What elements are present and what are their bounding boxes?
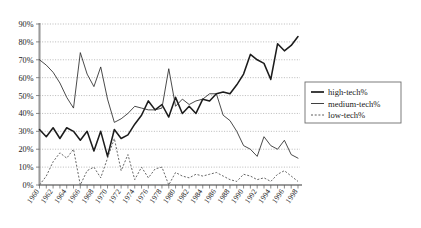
series-line-medium-tech	[40, 53, 299, 159]
x-axis-tick-label: 1976	[134, 187, 150, 205]
y-axis-tick-label: 10%	[18, 163, 33, 172]
x-axis-tick-label: 1972	[107, 187, 123, 205]
chart-legend: high-tech%medium-tech%low-tech%	[305, 82, 401, 123]
line-chart: 0%10%20%30%40%50%60%70%80%90% 1960196219…	[0, 0, 421, 228]
legend-label-high-tech: high-tech%	[328, 87, 368, 97]
x-axis-tick-labels: 1960196219641966196819701972197419761978…	[25, 187, 300, 205]
x-axis-tick-label: 1994	[256, 187, 272, 205]
x-axis-tick-label: 1966	[66, 187, 82, 205]
x-axis-tick-label: 1988	[216, 187, 232, 205]
x-axis-tick-label: 1986	[202, 187, 218, 205]
y-axis-tick-label: 80%	[18, 38, 33, 47]
y-axis-tick-label: 70%	[18, 56, 33, 65]
legend-label-medium-tech: medium-tech%	[328, 99, 381, 109]
y-axis-tick-label: 30%	[18, 127, 33, 136]
x-axis-tick-label: 1996	[270, 187, 286, 205]
x-axis-tick-label: 1990	[229, 187, 245, 205]
x-axis-tick-label: 1982	[175, 187, 191, 205]
y-axis-tick-label: 90%	[18, 20, 33, 29]
x-axis-tick-label: 1962	[39, 187, 55, 205]
y-axis-tick-labels: 0%10%20%30%40%50%60%70%80%90%	[18, 20, 33, 190]
x-axis-tick-label: 1984	[188, 187, 204, 205]
y-axis-tick-label: 20%	[18, 145, 33, 154]
x-axis-tick-label: 1974	[120, 187, 136, 205]
y-axis-tick-label: 60%	[18, 74, 33, 83]
x-axis-tick-label: 1980	[161, 187, 177, 205]
y-axis	[36, 23, 40, 186]
x-axis-tick-label: 1992	[243, 187, 259, 205]
x-axis-tick-label: 1978	[148, 187, 164, 205]
x-axis-tick-label: 1968	[79, 187, 95, 205]
x-axis-tick-label: 1998	[284, 187, 300, 205]
x-axis-tick-label: 1964	[52, 187, 68, 205]
y-axis-tick-label: 50%	[18, 92, 33, 101]
series-line-low-tech	[40, 138, 299, 185]
gridlines	[40, 24, 301, 185]
data-series	[40, 37, 299, 185]
legend-label-low-tech: low-tech%	[328, 110, 365, 120]
chart-container: 0%10%20%30%40%50%60%70%80%90% 1960196219…	[0, 0, 421, 228]
y-axis-tick-label: 40%	[18, 109, 33, 118]
series-line-high-tech	[40, 37, 299, 157]
x-axis-tick-label: 1970	[93, 187, 109, 205]
